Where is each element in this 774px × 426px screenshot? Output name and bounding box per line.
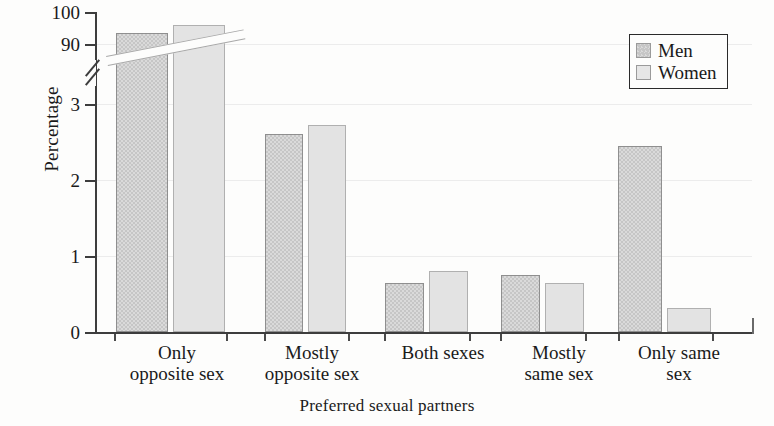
bar-men-mostly-opposite-sex[interactable] xyxy=(265,134,303,332)
bar-women-both-sexes[interactable] xyxy=(429,271,468,332)
y-tick-mark-100 xyxy=(85,12,95,14)
bar-women-mostly-opposite-sex[interactable] xyxy=(308,125,346,332)
bar-men-both-sexes[interactable] xyxy=(385,283,424,332)
legend-label-men: Men xyxy=(658,41,693,60)
legend-item-men[interactable]: Men xyxy=(636,39,717,61)
y-axis-title: Percentage xyxy=(41,29,63,229)
y-tick-label-1: 1 xyxy=(20,247,80,266)
legend-swatch-women-icon xyxy=(636,65,651,80)
x-tick-mark-1 xyxy=(226,334,228,341)
legend: Men Women xyxy=(629,34,728,89)
y-tick-label-90: 90 xyxy=(20,35,80,54)
y-tick-mark-1 xyxy=(85,256,95,258)
bar-men-only-opposite-sex[interactable] xyxy=(116,33,168,332)
x-axis-title: Preferred sexual partners xyxy=(0,396,774,416)
x-tick-mark-4 xyxy=(384,334,386,341)
y-tick-label-2: 2 xyxy=(20,171,80,190)
bar-women-mostly-same-sex[interactable] xyxy=(545,283,584,332)
legend-swatch-men-icon xyxy=(636,43,651,58)
x-axis-line xyxy=(95,332,754,334)
y-tick-label-3: 3 xyxy=(20,95,80,114)
x-tick-mark-7 xyxy=(585,334,587,341)
bar-men-only-same-sex[interactable] xyxy=(618,146,662,332)
chart-figure: Percentage 100 90 3 2 1 0 xyxy=(0,0,774,426)
y-tick-mark-3 xyxy=(85,104,95,106)
bar-women-only-same-sex[interactable] xyxy=(667,308,711,332)
x-tick-mark-6 xyxy=(500,334,502,341)
y-tick-mark-90 xyxy=(85,44,95,46)
x-tick-mark-9 xyxy=(712,334,714,341)
x-tick-mark-5 xyxy=(469,334,471,341)
y-tick-label-100: 100 xyxy=(20,3,80,22)
bar-women-only-opposite-sex[interactable] xyxy=(173,25,225,332)
bar-men-mostly-same-sex[interactable] xyxy=(501,275,540,332)
x-tick-mark-2 xyxy=(264,334,266,341)
y-tick-mark-2 xyxy=(85,180,95,182)
x-tick-mark-8 xyxy=(618,334,620,341)
y-tick-label-0: 0 xyxy=(20,323,80,342)
x-tick-mark-0 xyxy=(114,334,116,341)
legend-label-women: Women xyxy=(658,63,717,82)
x-category-label-only-same-sex: Only same sex xyxy=(604,342,754,385)
x-axis-right-cap xyxy=(752,318,754,334)
legend-item-women[interactable]: Women xyxy=(636,61,717,83)
x-tick-mark-3 xyxy=(348,334,350,341)
y-tick-mark-0 xyxy=(85,332,95,334)
